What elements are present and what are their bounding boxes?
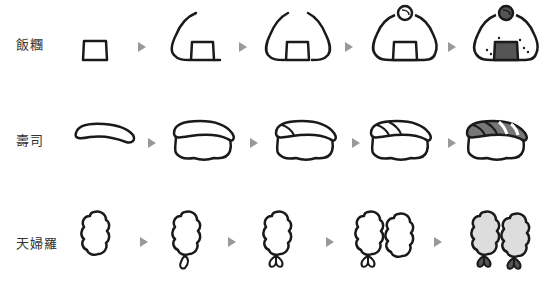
row-label-tempura: 天婦羅 (16, 233, 58, 252)
sushi-step-4-illustration (367, 115, 437, 165)
sushi-step-5-illustration (463, 115, 539, 165)
onigiri-step-4-illustration (365, 2, 445, 64)
arrow-icon (148, 138, 156, 148)
tempura-step-1-illustration (76, 208, 116, 268)
onigiri-step-1-illustration (70, 20, 130, 70)
onigiri-step-3-illustration (258, 5, 338, 65)
tempura-step-5-illustration (466, 208, 536, 274)
arrow-icon (434, 237, 442, 247)
tempura-step-4 (350, 208, 420, 278)
arrow-icon (250, 138, 258, 148)
tempura-step-5 (466, 208, 536, 278)
tempura-step-2-illustration (167, 208, 207, 274)
sushi-step-1-illustration (70, 115, 140, 155)
tempura-step-1 (76, 208, 116, 272)
tempura-step-3-illustration (258, 208, 298, 274)
arrow-icon (140, 237, 148, 247)
arrow-icon (228, 237, 236, 247)
sushi-step-3-illustration (272, 115, 342, 165)
onigiri-step-1 (70, 20, 130, 74)
tempura-step-4-illustration (350, 208, 420, 274)
arrow-icon (239, 42, 247, 52)
row-label-sushi: 壽司 (16, 130, 44, 149)
tempura-step-2 (167, 208, 207, 278)
onigiri-step-3 (258, 5, 338, 69)
arrow-icon (326, 237, 334, 247)
sushi-step-4 (367, 115, 437, 169)
sushi-step-2 (170, 115, 240, 169)
arrow-icon (448, 42, 456, 52)
arrow-icon (352, 138, 360, 148)
arrow-icon (448, 138, 456, 148)
sushi-step-2-illustration (170, 115, 240, 165)
sushi-step-5 (463, 115, 539, 169)
onigiri-step-4 (365, 2, 445, 68)
tempura-step-3 (258, 208, 298, 278)
onigiri-step-2 (160, 5, 240, 69)
sushi-step-3 (272, 115, 342, 169)
sushi-step-1 (70, 115, 140, 159)
onigiri-step-5-illustration (466, 2, 546, 64)
row-label-onigiri: 飯糰 (16, 34, 44, 53)
arrow-icon (345, 42, 353, 52)
onigiri-step-5 (466, 2, 546, 68)
arrow-icon (138, 42, 146, 52)
onigiri-step-2-illustration (160, 5, 240, 65)
